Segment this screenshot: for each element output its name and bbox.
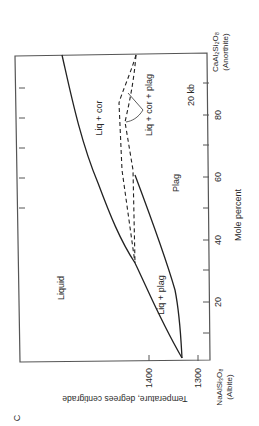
label-liq-cor-plag: Liq + cor + plag bbox=[144, 74, 154, 136]
dashed-boundary-upper bbox=[119, 55, 136, 263]
albite-formula: NaAlSi₃O₈ bbox=[215, 368, 224, 405]
anorthite-name: (Anorthite) bbox=[221, 33, 230, 71]
anorthite-formula: CaAl₂Si₂O₈ bbox=[211, 32, 220, 72]
arrow-to-cusp bbox=[128, 93, 143, 110]
tick-label-1400: 1400 bbox=[144, 368, 154, 388]
albite-name: (Albite) bbox=[225, 374, 234, 400]
figure-letter: C bbox=[12, 414, 22, 421]
tick-label-20: 20 bbox=[213, 297, 223, 307]
phase-diagram: Liq + cor Liq + cor + plag 20 kb Plag Li… bbox=[0, 0, 259, 426]
arrow-to-boundary bbox=[126, 110, 143, 122]
label-liquid: Liquid bbox=[56, 276, 66, 300]
solidus-curve bbox=[135, 175, 182, 358]
dashed-boundary-lower bbox=[125, 55, 136, 263]
label-pressure: 20 kb bbox=[186, 84, 196, 106]
temperature-ticks bbox=[19, 88, 198, 361]
tick-label-80: 80 bbox=[213, 110, 223, 120]
label-liq-plag: Liq + plag bbox=[156, 275, 166, 314]
label-liq-cor: Liq + cor bbox=[94, 101, 104, 136]
x-axis-title: Mole percent bbox=[233, 188, 243, 241]
y-axis-title: Temperature, degrees centigrade bbox=[62, 394, 187, 404]
tick-label-60: 60 bbox=[213, 172, 223, 182]
plot-frame bbox=[15, 53, 210, 362]
tick-label-40: 40 bbox=[213, 235, 223, 245]
tick-label-1300: 1300 bbox=[193, 368, 203, 388]
label-plag: Plag bbox=[171, 174, 181, 192]
